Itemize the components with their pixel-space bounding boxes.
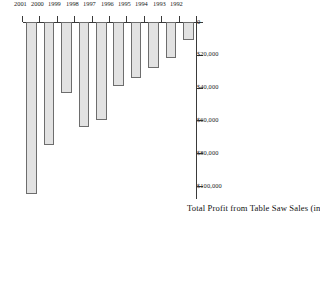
category-label-2001: 2001 (14, 0, 27, 7)
bar-2001 (26, 22, 37, 194)
category-label-1998: 1998 (66, 0, 79, 7)
bar-1997 (96, 22, 107, 120)
bar-1992 (183, 22, 194, 40)
category-axis-tick (144, 16, 145, 22)
value-axis-tick-label: $20,000 (197, 50, 218, 57)
category-axis-tick (74, 16, 75, 22)
bar-chart: 0$20,000$40,000$60,000$80,000$100,000 19… (0, 0, 225, 288)
category-label-1993: 1993 (153, 0, 166, 7)
value-axis-tick-label: $40,000 (197, 83, 218, 90)
bar-2000 (44, 22, 55, 145)
category-axis-tick (109, 16, 110, 22)
category-label-1995: 1995 (118, 0, 131, 7)
category-label-1992: 1992 (170, 0, 183, 7)
value-axis-tick-label: 0 (197, 18, 200, 25)
bar-1993 (166, 22, 177, 58)
value-axis-line (197, 22, 198, 199)
category-label-1996: 1996 (101, 0, 114, 7)
bar-1998 (79, 22, 90, 127)
rotated-figure-wrapper: 0$20,000$40,000$60,000$80,000$100,000 19… (0, 0, 225, 288)
category-axis-tick (179, 16, 180, 22)
bar-1995 (131, 22, 142, 78)
category-label-1999: 1999 (49, 0, 62, 7)
bar-1996 (113, 22, 124, 86)
category-axis-tick (196, 16, 197, 22)
value-axis-tick-label: $60,000 (197, 116, 218, 123)
category-axis-tick (161, 16, 162, 22)
category-axis-tick (22, 16, 23, 22)
category-axis-tick (39, 16, 40, 22)
category-axis-tick (126, 16, 127, 22)
value-axis-tick-label: $100,000 (197, 182, 222, 189)
bar-1994 (148, 22, 159, 68)
category-axis-tick (57, 16, 58, 22)
category-label-1997: 1997 (83, 0, 96, 7)
category-axis-tick (92, 16, 93, 22)
axis-title: Total Profit from Table Saw Sales (in do… (187, 203, 225, 213)
bar-1999 (61, 22, 72, 93)
category-label-2000: 2000 (31, 0, 44, 7)
category-label-1994: 1994 (136, 0, 149, 7)
value-axis-tick-label: $80,000 (197, 149, 218, 156)
